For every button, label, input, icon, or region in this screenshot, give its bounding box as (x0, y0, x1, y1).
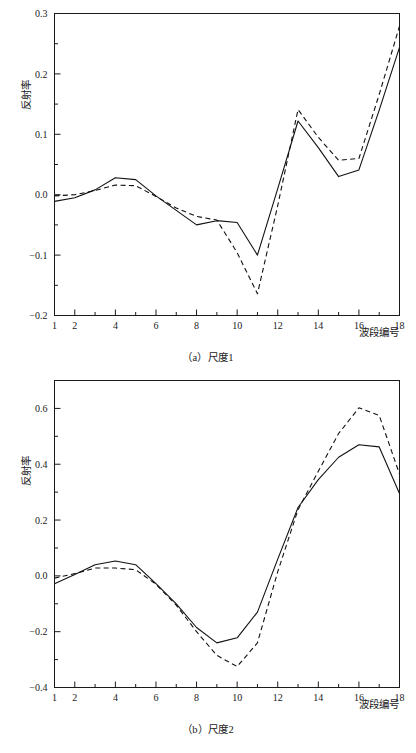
chart-b-plot: −0.4−0.20.00.20.40.6 124681012141618 反射率… (0, 376, 416, 711)
figure-scale-1: −0.2−0.10.00.10.20.3 124681012141618 反射率… (0, 0, 416, 376)
series-line-dashed (55, 408, 400, 667)
y-tick-label: −0.2 (29, 310, 47, 321)
x-tick-label: 8 (194, 320, 199, 331)
x-tick-label: 6 (153, 692, 158, 703)
figure-page: −0.2−0.10.00.10.20.3 124681012141618 反射率… (0, 0, 416, 753)
x-tick-label: 12 (273, 320, 283, 331)
chart-a-series-group (55, 26, 400, 294)
series-line-solid (55, 445, 400, 643)
figure-scale-2: −0.4−0.20.00.20.40.6 124681012141618 反射率… (0, 376, 416, 753)
x-tick-label: 10 (232, 320, 242, 331)
y-tick-label: 0.3 (35, 8, 48, 19)
x-tick-label: 8 (194, 692, 199, 703)
x-tick-label: 2 (72, 320, 77, 331)
chart-b-frame (55, 381, 400, 688)
y-tick-label: 0.4 (35, 459, 48, 470)
chart-a-x-axis-label: 波段编号 (359, 326, 399, 338)
y-tick-label: 0.6 (35, 403, 48, 414)
chart-b-series-group (55, 408, 400, 667)
chart-a-y-axis-label: 反射率 (20, 80, 32, 110)
series-line-solid (55, 47, 400, 255)
chart-a-y-axis-ticks: −0.2−0.10.00.10.20.3 (29, 8, 60, 321)
x-tick-label: 4 (113, 320, 118, 331)
chart-a-x-axis-ticks: 124681012141618 (52, 310, 405, 331)
chart-a-caption: （a）尺度1 (0, 349, 416, 364)
chart-a-plot: −0.2−0.10.00.10.20.3 124681012141618 反射率… (0, 0, 416, 340)
x-tick-label: 4 (113, 692, 118, 703)
chart-a-frame (55, 14, 400, 316)
x-tick-label: 6 (153, 320, 158, 331)
chart-b-y-axis-label: 反射率 (20, 456, 32, 486)
y-tick-label: 0.1 (35, 129, 48, 140)
x-tick-label: 10 (232, 692, 242, 703)
y-tick-label: 0.2 (35, 515, 48, 526)
chart-b-x-axis-ticks: 124681012141618 (52, 682, 405, 703)
chart-b-caption: （b）尺度2 (0, 721, 416, 736)
y-tick-label: 0.2 (35, 69, 48, 80)
y-tick-label: 0.0 (35, 570, 48, 581)
x-tick-label: 12 (273, 692, 283, 703)
chart-b-y-axis-ticks: −0.4−0.20.00.20.40.6 (29, 381, 60, 694)
x-tick-label: 1 (52, 692, 57, 703)
y-tick-label: 0.0 (35, 189, 48, 200)
x-tick-label: 14 (313, 320, 323, 331)
x-tick-label: 1 (52, 320, 57, 331)
x-tick-label: 14 (313, 692, 323, 703)
y-tick-label: −0.2 (29, 626, 47, 637)
x-tick-label: 2 (72, 692, 77, 703)
y-tick-label: −0.1 (29, 250, 47, 261)
chart-b-x-axis-label: 波段编号 (359, 698, 399, 710)
series-line-dashed (55, 26, 400, 294)
y-tick-label: −0.4 (29, 682, 47, 693)
